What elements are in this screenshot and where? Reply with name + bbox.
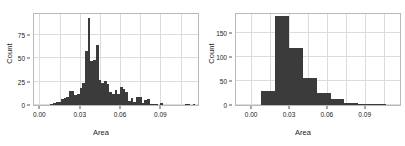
x-tick-label: 0.06: [321, 111, 334, 118]
histogram-bar: [317, 93, 331, 105]
gridline-horizontal: [34, 34, 198, 35]
y-tick-mark: [229, 57, 232, 58]
x-axis-label-right: Area: [202, 128, 404, 137]
x-tick-label: 0.03: [73, 111, 86, 118]
y-tick-label: 0: [223, 102, 227, 109]
y-axis-ticks-left: 0255075: [12, 0, 30, 146]
gridline-vertical-minor: [181, 14, 182, 105]
histogram-bar: [160, 103, 163, 105]
histogram-bar: [331, 99, 345, 105]
gridline-vertical: [365, 14, 366, 105]
histogram-figure: Count 0255075 0.000.030.060.09 Area Coun…: [0, 0, 405, 146]
gridline-horizontal: [236, 80, 400, 81]
histogram-bar: [372, 104, 386, 105]
y-axis-ticks-right: 050100150: [214, 0, 232, 146]
histogram-bar: [275, 16, 289, 105]
x-tick-label: 0.00: [33, 111, 46, 118]
x-tick-mark: [251, 106, 252, 109]
gridline-horizontal: [34, 57, 198, 58]
histogram-bar: [187, 104, 190, 105]
histogram-panel-right: Count 050100150 0.000.030.060.09 Area: [202, 0, 404, 146]
gridline-horizontal: [34, 81, 198, 82]
histogram-bar: [155, 104, 158, 105]
y-tick-label: 50: [18, 55, 25, 62]
y-tick-mark: [27, 58, 30, 59]
histogram-bar: [261, 91, 275, 105]
gridline-vertical: [327, 14, 328, 105]
gridline-vertical: [39, 14, 40, 105]
gridline-horizontal: [236, 56, 400, 57]
histogram-bar: [344, 103, 358, 105]
histogram-panel-left: Count 0255075 0.000.030.060.09 Area: [0, 0, 202, 146]
gridline-vertical-minor: [140, 14, 141, 105]
x-tick-label: 0.00: [245, 111, 258, 118]
x-tick-label: 0.03: [283, 111, 296, 118]
gridline-vertical-minor: [60, 14, 61, 105]
x-tick-mark: [120, 106, 121, 109]
y-tick-mark: [229, 81, 232, 82]
x-tick-mark: [326, 106, 327, 109]
y-tick-mark: [27, 81, 30, 82]
histogram-bar: [193, 104, 196, 105]
histogram-bar: [303, 78, 317, 105]
gridline-vertical-minor: [384, 14, 385, 105]
y-tick-label: 25: [18, 78, 25, 85]
gridline-vertical: [160, 14, 161, 105]
plot-area-right: [235, 13, 401, 106]
y-tick-mark: [229, 33, 232, 34]
x-axis-label-left: Area: [0, 128, 202, 137]
x-tick-mark: [79, 106, 80, 109]
x-tick-mark: [160, 106, 161, 109]
plot-area-left: [33, 13, 199, 106]
x-tick-mark: [39, 106, 40, 109]
gridline-vertical-minor: [346, 14, 347, 105]
x-tick-label: 0.06: [114, 111, 127, 118]
y-tick-mark: [27, 34, 30, 35]
y-tick-label: 150: [216, 30, 227, 37]
y-tick-label: 50: [220, 78, 227, 85]
gridline-vertical: [251, 14, 252, 105]
y-tick-label: 0: [21, 102, 25, 109]
x-tick-label: 0.09: [154, 111, 167, 118]
y-tick-label: 75: [18, 31, 25, 38]
x-tick-mark: [364, 106, 365, 109]
gridline-horizontal: [236, 32, 400, 33]
y-tick-mark: [27, 105, 30, 106]
y-tick-label: 100: [216, 54, 227, 61]
x-tick-mark: [288, 106, 289, 109]
histogram-bar: [289, 48, 303, 105]
y-tick-mark: [229, 105, 232, 106]
histogram-bar: [358, 104, 372, 105]
x-tick-label: 0.09: [358, 111, 371, 118]
